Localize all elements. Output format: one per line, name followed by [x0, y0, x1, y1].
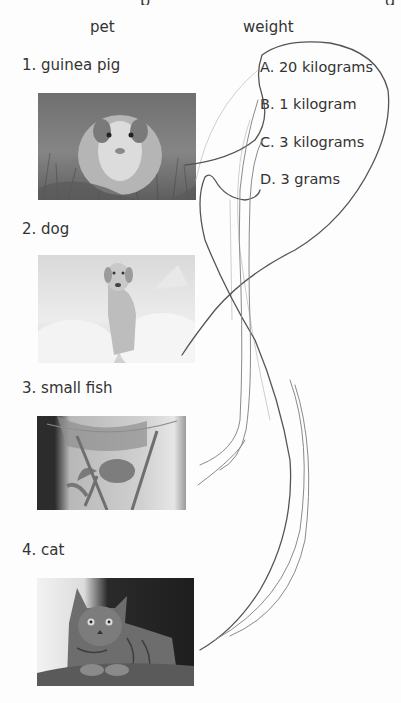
- guinea-pig-illustration: [38, 93, 196, 200]
- pet-label-small-fish: 3. small fish: [22, 379, 113, 397]
- guinea-pig-photo: [38, 93, 196, 200]
- pet-label-guinea-pig: 1. guinea pig: [22, 56, 120, 74]
- small-fish-photo: [37, 416, 186, 510]
- cut-off-text-fragment: g p: [385, 0, 401, 5]
- cat-photo: [37, 578, 194, 686]
- matching-line-c: [220, 140, 262, 470]
- column-header-pet: pet: [90, 18, 115, 36]
- cut-off-text-fragment: p: [140, 0, 150, 5]
- matching-line-cat: [230, 385, 309, 636]
- dog-photo: [38, 255, 195, 363]
- matching-line-cat: [215, 380, 304, 640]
- cut-off-text-line: p g p: [0, 0, 401, 5]
- erased-pencil-line: [230, 200, 232, 320]
- dog-illustration: [38, 255, 195, 363]
- matching-line-fish: [198, 440, 245, 485]
- matching-line-d: [200, 175, 291, 650]
- weight-option-d: D. 3 grams: [260, 171, 340, 187]
- cat-illustration: [37, 578, 194, 686]
- pet-label-dog: 2. dog: [22, 220, 69, 238]
- weight-option-a: A. 20 kilograms: [260, 59, 373, 75]
- matching-line-guinea-pig: [182, 42, 389, 355]
- weight-option-c: C. 3 kilograms: [260, 134, 364, 150]
- column-header-weight: weight: [243, 18, 294, 36]
- pet-label-cat: 4. cat: [22, 541, 64, 559]
- matching-line-b: [200, 100, 258, 465]
- erased-pencil-line: [196, 70, 258, 180]
- erased-pencil-line: [238, 120, 270, 420]
- small-fish-illustration: [37, 416, 186, 510]
- weight-option-b: B. 1 kilogram: [260, 96, 357, 112]
